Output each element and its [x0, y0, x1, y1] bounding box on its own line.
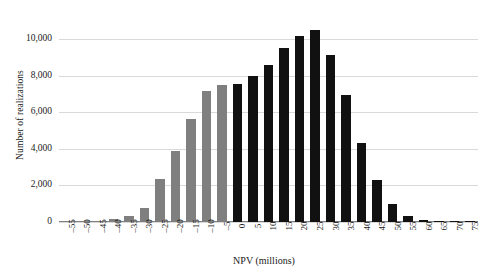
x-tick-slot: 30 — [323, 225, 339, 255]
x-tick-slot: 70 — [447, 225, 463, 255]
bar-slot — [400, 21, 416, 222]
x-tick-slot: 35 — [338, 225, 354, 255]
bar-slot — [447, 21, 463, 222]
bar-slot — [354, 21, 370, 222]
bar — [279, 48, 289, 223]
bar-slot — [369, 21, 385, 222]
bar — [341, 95, 351, 222]
x-tick-slot: 75 — [462, 225, 478, 255]
bar — [217, 85, 227, 222]
y-axis-tick: 6,000 — [0, 107, 52, 117]
bar-slot — [214, 21, 230, 222]
x-axis-tick: 75 — [470, 222, 480, 231]
y-axis-tick: 10,000 — [0, 34, 52, 44]
bar-slot — [307, 21, 323, 222]
bar — [326, 55, 336, 222]
x-tick-slot: –35 — [121, 225, 137, 255]
y-axis-tick: 0 — [0, 217, 52, 227]
x-tick-slot: –50 — [75, 225, 91, 255]
bar-slot — [59, 21, 75, 222]
bar-slot — [90, 21, 106, 222]
x-tick-slot: 15 — [276, 225, 292, 255]
bar-slot — [338, 21, 354, 222]
x-tick-slot: –25 — [152, 225, 168, 255]
bar — [264, 65, 274, 222]
bar — [202, 91, 212, 222]
bar-slot — [292, 21, 308, 222]
x-tick-slot: 65 — [431, 225, 447, 255]
x-tick-slot: 50 — [385, 225, 401, 255]
x-tick-slot: 40 — [354, 225, 370, 255]
y-axis-tick: 4,000 — [0, 144, 52, 154]
x-tick-slot: 60 — [416, 225, 432, 255]
y-axis-tick: 2,000 — [0, 180, 52, 190]
x-tick-slot: –10 — [199, 225, 215, 255]
x-tick-slot: –20 — [168, 225, 184, 255]
bar — [310, 30, 320, 222]
x-axis-title: NPV (millions) — [0, 255, 488, 266]
x-tick-slot: 20 — [292, 225, 308, 255]
bar — [155, 179, 165, 222]
bar-slot — [431, 21, 447, 222]
bar — [357, 143, 367, 222]
bar-slot — [416, 21, 432, 222]
bar — [295, 36, 305, 222]
bar-slot — [168, 21, 184, 222]
bar-slot — [462, 21, 478, 222]
bar-slot — [245, 21, 261, 222]
bar-slot — [261, 21, 277, 222]
x-tick-slot: –5 — [214, 225, 230, 255]
bar-series — [59, 21, 478, 222]
bar — [388, 204, 398, 222]
bar-slot — [230, 21, 246, 222]
plot-area — [59, 21, 478, 222]
x-tick-slot: 0 — [230, 225, 246, 255]
bar-slot — [385, 21, 401, 222]
x-tick-slot: –40 — [106, 225, 122, 255]
bar-slot — [323, 21, 339, 222]
x-tick-slot: 10 — [261, 225, 277, 255]
bar — [171, 151, 181, 222]
bar — [248, 76, 258, 222]
x-tick-slot: 55 — [400, 225, 416, 255]
bar-slot — [183, 21, 199, 222]
bar — [372, 180, 382, 222]
bar-slot — [137, 21, 153, 222]
bar-slot — [121, 21, 137, 222]
x-tick-slot: 25 — [307, 225, 323, 255]
bar-slot — [152, 21, 168, 222]
x-tick-slot: –15 — [183, 225, 199, 255]
x-tick-slot: –45 — [90, 225, 106, 255]
bar-slot — [106, 21, 122, 222]
y-axis-tick: 8,000 — [0, 71, 52, 81]
histogram-chart: Number of realizations 02,0004,0006,0008… — [0, 0, 488, 275]
bar-slot — [276, 21, 292, 222]
x-axis-tick-labels: –55–50–45–40–35–30–25–20–15–10–505101520… — [59, 225, 478, 255]
x-tick-slot: 45 — [369, 225, 385, 255]
bar — [186, 119, 196, 222]
x-tick-slot: –30 — [137, 225, 153, 255]
bar-slot — [75, 21, 91, 222]
x-tick-slot: –55 — [59, 225, 75, 255]
bar — [233, 84, 243, 222]
x-tick-slot: 5 — [245, 225, 261, 255]
bar-slot — [199, 21, 215, 222]
